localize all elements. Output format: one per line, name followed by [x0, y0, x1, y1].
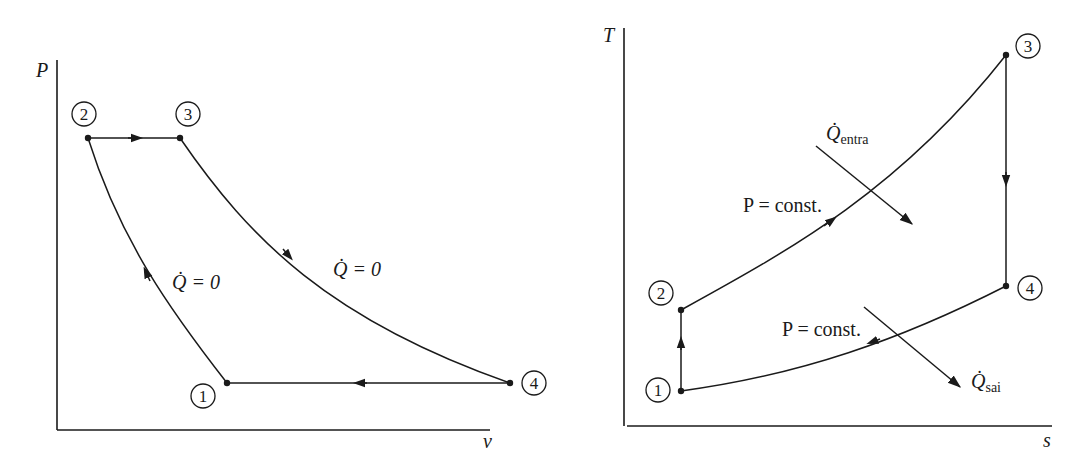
brayton-cycle-figure: P v 2 3 1 4	[0, 0, 1090, 474]
pv-point-1	[224, 380, 230, 386]
svg-text:1: 1	[654, 381, 663, 400]
ts-label-q-out: Q̇sai	[971, 370, 1001, 395]
svg-text:3: 3	[184, 105, 193, 124]
ts-point-4	[1003, 283, 1009, 289]
ts-state-label-1: 1	[646, 378, 670, 402]
ts-label-p-const-upper: P = const.	[743, 194, 822, 216]
svg-text:1: 1	[199, 387, 208, 406]
pv-state-label-4: 4	[522, 371, 546, 395]
ts-point-1	[678, 388, 684, 394]
pv-state-label-2: 2	[72, 102, 96, 126]
pv-arrow-3-4	[283, 249, 289, 256]
ts-state-label-2: 2	[649, 281, 673, 305]
ts-process-2-3	[681, 55, 1006, 310]
svg-text:2: 2	[657, 284, 666, 303]
svg-text:4: 4	[530, 374, 539, 393]
ts-point-2	[678, 307, 684, 313]
ts-heat-out-arrow	[864, 307, 960, 387]
pv-state-label-1: 1	[191, 384, 215, 408]
svg-text:2: 2	[80, 105, 89, 124]
ts-heat-in-arrow	[816, 146, 912, 224]
pv-diagram: P v 2 3 1 4	[35, 59, 546, 452]
pv-label-q-expansion: Q̇ = 0	[333, 258, 381, 280]
pv-point-3	[177, 135, 183, 141]
ts-state-label-4: 4	[1018, 276, 1042, 300]
pv-y-axis-label: P	[35, 59, 48, 81]
pv-point-2	[85, 135, 91, 141]
ts-state-label-3: 3	[1016, 34, 1040, 58]
svg-text:3: 3	[1024, 37, 1033, 56]
ts-diagram: T s 1 2 3	[603, 24, 1052, 451]
ts-point-3	[1003, 52, 1009, 58]
pv-x-axis-label: v	[483, 430, 492, 452]
ts-label-p-const-lower: P = const.	[782, 318, 861, 340]
ts-label-q-in: Q̇entra	[826, 122, 869, 147]
ts-x-axis-label: s	[1043, 429, 1051, 451]
pv-state-label-3: 3	[176, 102, 200, 126]
pv-label-q-compression: Q̇ = 0	[172, 271, 220, 293]
ts-arrow-2-3	[824, 220, 832, 226]
svg-text:4: 4	[1026, 279, 1035, 298]
pv-point-4	[507, 380, 513, 386]
ts-y-axis-label: T	[603, 24, 616, 46]
